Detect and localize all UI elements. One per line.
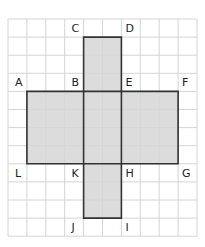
vertex-label-d: D xyxy=(125,23,133,34)
cuboid-net-shape xyxy=(27,37,178,218)
vertex-label-h: H xyxy=(125,168,133,179)
vertex-label-i: I xyxy=(125,222,128,233)
vertex-label-j: J xyxy=(72,222,75,233)
vertex-label-g: G xyxy=(182,168,191,179)
net-diagram xyxy=(0,0,205,247)
vertex-label-a: A xyxy=(15,77,23,88)
vertex-label-c: C xyxy=(72,23,80,34)
vertex-label-b: B xyxy=(72,77,80,88)
vertex-label-l: L xyxy=(15,168,21,179)
vertex-label-f: F xyxy=(182,77,188,88)
vertex-label-e: E xyxy=(125,77,132,88)
vertex-label-k: K xyxy=(72,168,79,179)
